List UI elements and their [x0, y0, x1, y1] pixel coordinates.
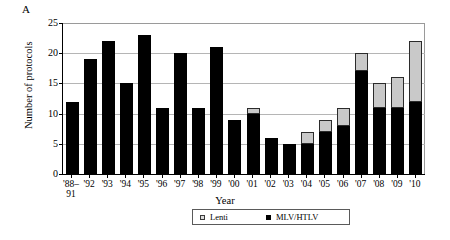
gridline	[63, 144, 425, 145]
chart-legend: Lenti MLV/HTLV	[192, 209, 350, 225]
bar-group	[66, 102, 79, 174]
x-tick-mark	[125, 174, 126, 178]
y-tick-mark	[59, 23, 63, 24]
legend-item-mlv: MLV/HTLV	[266, 213, 318, 222]
bar-group	[391, 77, 404, 174]
x-tick-label: '96	[156, 180, 167, 190]
bar-group	[409, 41, 422, 174]
bar-segment-mlv	[138, 35, 151, 174]
y-tick-mark	[59, 53, 63, 54]
bar-segment-mlv	[373, 108, 386, 174]
bar-segment-mlv	[102, 41, 115, 174]
bar-segment-lenti	[355, 53, 368, 71]
x-tick-label: '07	[355, 180, 366, 190]
legend-swatch-mlv-icon	[266, 215, 271, 220]
x-tick-mark	[415, 174, 416, 178]
x-tick-mark	[71, 174, 72, 178]
bar-segment-mlv	[84, 59, 97, 174]
x-tick-label: '04	[301, 180, 312, 190]
bar-group	[228, 120, 241, 174]
x-tick-mark	[180, 174, 181, 178]
y-tick-label: 10	[48, 109, 58, 119]
y-tick-mark	[59, 174, 63, 175]
bar-segment-mlv	[228, 120, 241, 174]
x-tick-label: '06	[337, 180, 348, 190]
legend-label-lenti: Lenti	[210, 213, 228, 222]
bar-segment-mlv	[355, 71, 368, 174]
bar-segment-mlv	[247, 114, 260, 174]
x-tick-mark	[234, 174, 235, 178]
bar-segment-lenti	[301, 132, 314, 144]
bar-segment-mlv	[192, 108, 205, 174]
bar-group	[373, 83, 386, 174]
bar-group	[210, 47, 223, 174]
bar-segment-lenti	[337, 108, 350, 126]
bar-segment-mlv	[337, 126, 350, 174]
x-tick-mark	[361, 174, 362, 178]
x-tick-label: '02	[265, 180, 276, 190]
bar-group	[319, 120, 332, 174]
x-tick-mark	[162, 174, 163, 178]
x-tick-label: '98	[192, 180, 203, 190]
bar-group	[192, 108, 205, 174]
bar-group	[102, 41, 115, 174]
bar-segment-mlv	[301, 144, 314, 174]
bar-segment-mlv	[283, 144, 296, 174]
y-axis-title: Number of protocols	[24, 10, 35, 160]
y-tick-mark	[59, 83, 63, 84]
plot-area: 0510152025	[62, 23, 425, 175]
x-tick-label: '01	[246, 180, 257, 190]
y-tick-label: 5	[53, 139, 58, 149]
x-tick-label: '08	[373, 180, 384, 190]
x-tick-mark	[143, 174, 144, 178]
x-tick-mark	[379, 174, 380, 178]
figure-panel-a: A Number of protocols 0510152025 '88– 91…	[0, 0, 450, 240]
bar-segment-mlv	[319, 132, 332, 174]
legend-item-lenti: Lenti	[200, 213, 228, 222]
bar-segment-lenti	[409, 41, 422, 101]
x-tick-mark	[343, 174, 344, 178]
x-tick-label: '10	[409, 180, 420, 190]
x-tick-mark	[324, 174, 325, 178]
x-tick-mark	[107, 174, 108, 178]
x-tick-label: '95	[138, 180, 149, 190]
bar-group	[265, 138, 278, 174]
x-tick-mark	[89, 174, 90, 178]
bar-segment-mlv	[391, 108, 404, 174]
x-tick-label: '92	[84, 180, 95, 190]
bar-segment-lenti	[373, 83, 386, 107]
bar-segment-mlv	[156, 108, 169, 174]
y-tick-mark	[59, 144, 63, 145]
y-tick-label: 15	[48, 78, 58, 88]
bar-segment-mlv	[174, 53, 187, 174]
bar-group	[138, 35, 151, 174]
bar-segment-mlv	[66, 102, 79, 174]
gridline	[63, 83, 425, 84]
legend-label-mlv: MLV/HTLV	[276, 213, 318, 222]
bar-group	[301, 132, 314, 174]
bar-segment-mlv	[265, 138, 278, 174]
x-tick-label: '03	[283, 180, 294, 190]
bar-group	[156, 108, 169, 174]
y-tick-label: 0	[53, 169, 58, 179]
x-tick-label: '05	[319, 180, 330, 190]
bar-segment-mlv	[409, 102, 422, 174]
bar-group	[283, 144, 296, 174]
gridline	[63, 114, 425, 115]
x-tick-label: '00	[228, 180, 239, 190]
x-tick-label: '99	[210, 180, 221, 190]
x-tick-mark	[252, 174, 253, 178]
bar-group	[355, 53, 368, 174]
x-tick-mark	[288, 174, 289, 178]
bar-group	[337, 108, 350, 174]
y-tick-label: 25	[48, 18, 58, 28]
x-tick-label: '97	[174, 180, 185, 190]
x-tick-mark	[397, 174, 398, 178]
bar-group	[174, 53, 187, 174]
gridline	[63, 53, 425, 54]
x-axis-title: Year	[0, 196, 450, 207]
x-tick-label: '93	[102, 180, 113, 190]
y-tick-mark	[59, 114, 63, 115]
bar-group	[120, 83, 133, 174]
bar-segment-lenti	[391, 77, 404, 107]
